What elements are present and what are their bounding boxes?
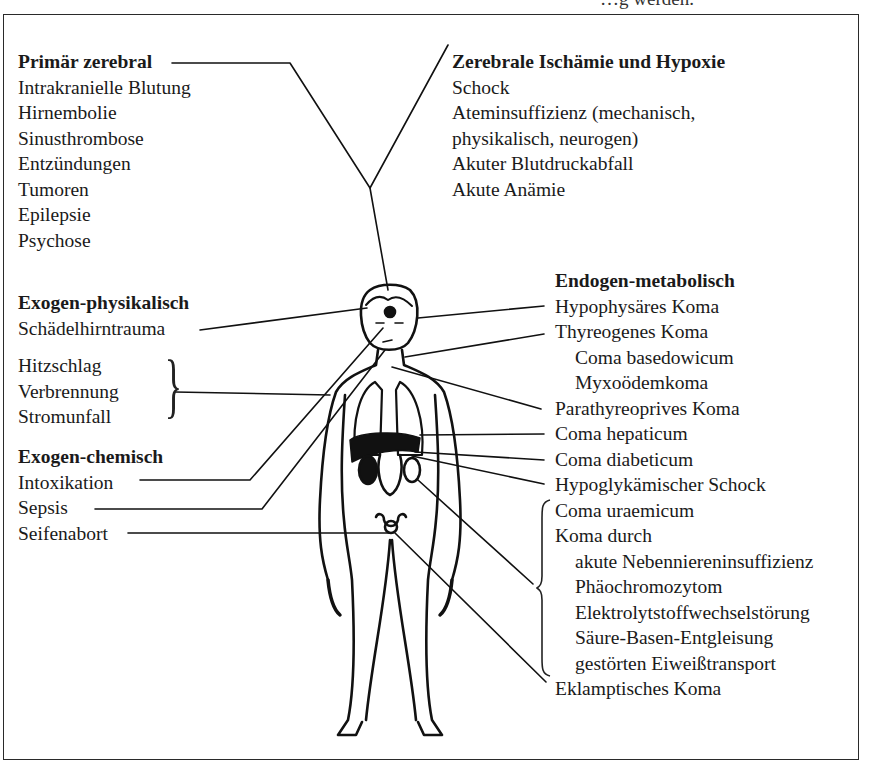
list-item: Myxoödemkoma (555, 370, 813, 396)
group-title: Endogen-metabolisch (555, 268, 813, 294)
list-item: Coma uraemicum (555, 498, 813, 524)
list-item: Hypoglykämischer Schock (555, 472, 813, 498)
list-item: Sepsis (18, 495, 163, 521)
list-item: Tumoren (18, 177, 191, 203)
list-item: Coma diabeticum (555, 447, 813, 473)
bracketed-list: Hitzschlag Verbrennung Stromunfall (18, 353, 119, 430)
list-item: Hypophysäres Koma (555, 294, 813, 320)
right-brace: } (165, 355, 182, 415)
list-item: Intrakranielle Blutung (18, 75, 191, 101)
group-ischaemie-hypoxie: Zerebrale Ischämie und Hypoxie Schock At… (452, 49, 725, 202)
list-item: Entzündungen (18, 151, 191, 177)
list-item: Thyreogenes Koma (555, 319, 813, 345)
group-title: Zerebrale Ischämie und Hypoxie (452, 49, 725, 75)
group-endogen-metabolisch: Endogen-metabolisch Hypophysäres Koma Th… (555, 268, 813, 702)
list-item: akute Nebenniereninsuffizienz (555, 549, 813, 575)
list-item: Verbrennung (18, 379, 119, 405)
list-item: Psychose (18, 228, 191, 254)
list-item: Akuter Blutdruckabfall (452, 151, 725, 177)
left-brace (536, 498, 556, 678)
list-item: Säure-Basen-Entgleisung (555, 625, 813, 651)
list-item: Epilepsie (18, 202, 191, 228)
list-item: physikalisch, neurogen) (452, 126, 725, 152)
body-outline (319, 285, 460, 735)
group-primaer-zerebral: Primär zerebral Intrakranielle Blutung H… (18, 49, 191, 253)
list-item: Akute Anämie (452, 177, 725, 203)
list-item: Parathyreoprives Koma (555, 396, 813, 422)
list-item: Koma durch (555, 523, 813, 549)
list-item: Schock (452, 75, 725, 101)
group-exogen-physikalisch: Exogen-physikalisch Schädelhirntrauma (18, 290, 189, 341)
list-item: Hirnembolie (18, 100, 191, 126)
list-item: Ateminsuffizienz (mechanisch, (452, 100, 725, 126)
list-item: Sinusthrombose (18, 126, 191, 152)
list-item: Coma basedowicum (555, 345, 813, 371)
group-exogen-chemisch: Exogen-chemisch Intoxikation Sepsis Seif… (18, 444, 163, 546)
list-item: Phäochromozytom (555, 574, 813, 600)
group-title: Primär zerebral (18, 49, 191, 75)
group-title: Exogen-chemisch (18, 444, 163, 470)
list-item: Intoxikation (18, 470, 163, 496)
group-title: Exogen-physikalisch (18, 290, 189, 316)
list-item: Schädelhirntrauma (18, 316, 189, 342)
list-item: Seifenabort (18, 521, 163, 547)
list-item: Coma hepaticum (555, 421, 813, 447)
list-item: gestörten Eiweißtransport (555, 651, 813, 677)
list-item: Eklamptisches Koma (555, 676, 813, 702)
list-item: Stromunfall (18, 404, 119, 430)
list-item: Elektrolytstoffwechselstörung (555, 600, 813, 626)
list-item: Hitzschlag (18, 353, 119, 379)
